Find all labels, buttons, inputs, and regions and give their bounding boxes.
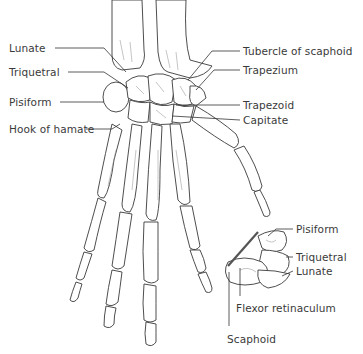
hand-bones-diagram: Lunate Triquetral Pisiform Hook of hamat… xyxy=(0,0,363,354)
label-hook-of-hamate: Hook of hamate xyxy=(9,123,94,135)
label-lunate: Lunate xyxy=(9,42,46,54)
label-pisiform: Pisiform xyxy=(9,96,52,108)
carpal-tunnel-inset xyxy=(225,231,290,288)
label-flexor-retinaculum: Flexor retinaculum xyxy=(236,302,336,314)
forearm-bones xyxy=(112,0,212,78)
label-scaphoid: Scaphoid xyxy=(227,333,276,345)
label-inset-triquetral: Triquetral xyxy=(296,251,347,263)
label-trapezium: Trapezium xyxy=(243,64,298,76)
label-inset-lunate: Lunate xyxy=(296,265,333,277)
label-tubercle-of-scaphoid: Tubercle of scaphoid xyxy=(243,45,353,57)
label-trapezoid: Trapezoid xyxy=(243,99,294,111)
label-capitate: Capitate xyxy=(243,114,288,126)
label-triquetral: Triquetral xyxy=(9,66,60,78)
label-inset-pisiform: Pisiform xyxy=(296,223,339,235)
